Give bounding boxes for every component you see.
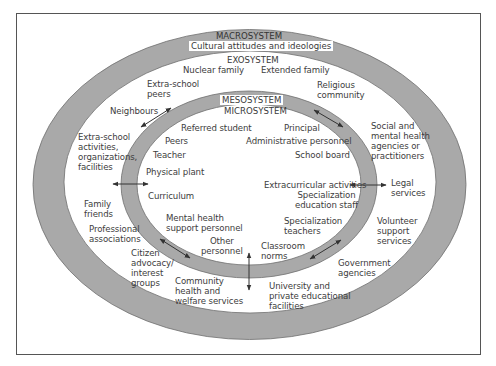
- exo-family-friends: Family friends: [84, 199, 113, 219]
- exo-government-agencies: Government agencies: [338, 258, 391, 278]
- micro-specialization-teachers: Specialization teachers: [284, 216, 342, 236]
- exo-neighbours: Neighbours: [110, 106, 158, 116]
- exosystem-title: EXOSYSTEM: [227, 55, 279, 65]
- micro-peers: Peers: [165, 136, 188, 146]
- microsystem-title: MICROSYSTEM: [224, 106, 287, 116]
- micro-teacher: Teacher: [153, 150, 186, 160]
- micro-referred-student: Referred student: [181, 123, 252, 133]
- micro-other-personnel: Other personnel: [201, 236, 243, 256]
- exo-social-mental-health: Social and mental health agencies or pra…: [371, 121, 430, 161]
- micro-principal: Principal: [284, 123, 320, 133]
- micro-school-board: School board: [295, 150, 350, 160]
- exo-nuclear-family: Nuclear family: [183, 65, 244, 75]
- exo-extra-school-activities: Extra-school activities, organizations, …: [78, 132, 137, 172]
- exo-extra-school-peers: Extra-school peers: [147, 79, 199, 99]
- micro-extracurricular-activities: Extracurricular activities: [264, 180, 366, 190]
- micro-administrative-personnel: Administrative personnel: [246, 136, 351, 146]
- exo-citizen-advocacy: Citizen advocacy/ interest groups: [131, 248, 174, 288]
- exo-professional-associations: Professional associations: [89, 224, 141, 244]
- micro-classroom-norms: Classroom norms: [261, 241, 305, 261]
- exo-university-facilities: University and private educational facil…: [269, 281, 351, 311]
- exo-legal-services: Legal services: [391, 178, 425, 198]
- macrosystem-title: MACROSYSTEM: [0, 31, 496, 41]
- micro-specialization-education-staff: Specialization education staff: [295, 190, 358, 210]
- exo-community-health: Community health and welfare services: [175, 276, 243, 306]
- mesosystem-title: MESOSYSTEM: [220, 95, 283, 105]
- exo-extended-family: Extended family: [261, 65, 330, 75]
- micro-mental-health-support: Mental health support personnel: [166, 213, 243, 233]
- macrosystem-subtitle: Cultural attitudes and ideologies: [189, 41, 333, 51]
- exo-volunteer-support: Volunteer support services: [377, 216, 417, 246]
- exo-religious-community: Religious community: [317, 80, 365, 100]
- micro-physical-plant: Physical plant: [146, 167, 204, 177]
- micro-curriculum: Curriculum: [148, 191, 194, 201]
